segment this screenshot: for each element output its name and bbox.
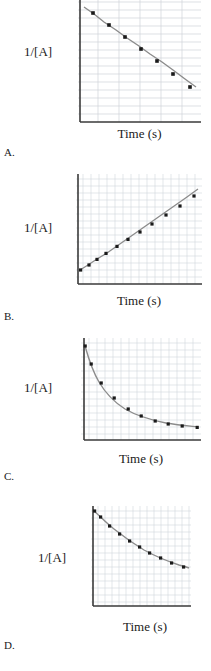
panel-d-letter: D. (4, 639, 15, 651)
panel-a-gridlines (78, 0, 201, 122)
panel-c: 1/[A] (0, 330, 211, 495)
panel-d-axes (93, 506, 191, 606)
panel-b-y-axis-label: 1/[A] (24, 220, 52, 236)
panel-d-plot-area (91, 506, 191, 613)
panel-d-gridlines (91, 506, 191, 606)
panel-c-chart (81, 338, 201, 448)
panel-c-letter: C. (4, 470, 14, 482)
panel-c-plot-area (81, 338, 201, 448)
panel-d-x-axis-label: Time (s) (85, 619, 205, 635)
panel-c-x-axis-label: Time (s) (81, 451, 201, 467)
panel-a-letter: A. (4, 146, 15, 158)
panel-b-x-axis-label: Time (s) (76, 293, 202, 309)
panel-d-chart (91, 506, 191, 613)
panel-b-data-markers (79, 194, 196, 271)
panel-c-y-axis-label: 1/[A] (24, 380, 52, 396)
panel-a-y-axis-label: 1/[A] (24, 44, 52, 60)
panel-d-y-axis-label: 1/[A] (38, 550, 66, 566)
panel-a-plot-area (78, 0, 201, 124)
panel-d: 1/[A] (0, 495, 211, 671)
panel-a-chart (78, 0, 201, 124)
panel-a: 1/[A] (0, 0, 211, 165)
panel-b-letter: B. (4, 310, 14, 322)
panel-b-gridlines (76, 174, 202, 284)
panel-b-plot-area (76, 174, 202, 290)
panel-b-axes (78, 174, 202, 284)
panel-a-x-axis-label: Time (s) (78, 126, 201, 142)
panel-b: 1/[A] (0, 165, 211, 330)
panel-b-chart (76, 174, 202, 290)
